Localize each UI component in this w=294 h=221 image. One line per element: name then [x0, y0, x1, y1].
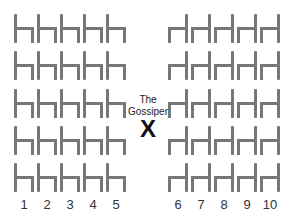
chair-col-8-row-5: [214, 163, 234, 192]
chair-seat: [14, 139, 31, 142]
gossiper-label-line1: The: [128, 94, 168, 106]
chair-seat: [194, 139, 211, 142]
chair-seat: [83, 64, 100, 67]
column-label-9: 9: [236, 197, 258, 212]
chair-leg: [260, 139, 263, 155]
chair-leg: [168, 64, 171, 80]
chair-col-6-row-3: [168, 89, 188, 118]
chair-seat: [106, 64, 123, 67]
chair-seat: [106, 102, 123, 105]
chair-col-10-row-4: [260, 126, 280, 155]
chair-leg: [77, 102, 80, 118]
chair-col-9-row-4: [237, 126, 257, 155]
chair-leg: [237, 176, 240, 192]
chair-col-1-row-4: [14, 126, 34, 155]
chair-leg: [237, 102, 240, 118]
chair-leg: [100, 102, 103, 118]
chair-leg: [191, 64, 194, 80]
chair-seat: [194, 176, 211, 179]
chair-col-5-row-1: [106, 14, 126, 43]
chair-leg: [77, 27, 80, 43]
chair-col-2-row-5: [37, 163, 57, 192]
chair-col-3-row-3: [60, 89, 80, 118]
chair-seat: [60, 176, 77, 179]
chair-col-9-row-5: [237, 163, 257, 192]
chair-leg: [237, 64, 240, 80]
chair-leg: [123, 27, 126, 43]
chair-seat: [37, 139, 54, 142]
chair-col-7-row-5: [191, 163, 211, 192]
chair-seat: [106, 176, 123, 179]
chair-col-10-row-2: [260, 51, 280, 80]
chair-seat: [194, 64, 211, 67]
chair-seat: [37, 64, 54, 67]
chair-leg: [237, 27, 240, 43]
chair-leg: [54, 176, 57, 192]
chair-col-2-row-2: [37, 51, 57, 80]
chair-leg: [123, 139, 126, 155]
chair-leg: [260, 64, 263, 80]
chair-col-2-row-4: [37, 126, 57, 155]
chair-col-7-row-3: [191, 89, 211, 118]
chair-col-6-row-5: [168, 163, 188, 192]
chair-col-8-row-3: [214, 89, 234, 118]
chair-seat: [240, 176, 257, 179]
chair-col-8-row-4: [214, 126, 234, 155]
chair-seat: [60, 27, 77, 30]
chair-leg: [214, 64, 217, 80]
column-label-1: 1: [13, 197, 35, 212]
chair-seat: [217, 176, 234, 179]
chair-leg: [214, 27, 217, 43]
chair-leg: [31, 27, 34, 43]
chair-col-9-row-3: [237, 89, 257, 118]
chair-col-4-row-3: [83, 89, 103, 118]
chair-seat: [83, 176, 100, 179]
chair-leg: [214, 102, 217, 118]
chair-leg: [214, 176, 217, 192]
chair-col-9-row-2: [237, 51, 257, 80]
chair-seat: [60, 64, 77, 67]
chair-leg: [54, 102, 57, 118]
chair-seat: [83, 139, 100, 142]
chair-leg: [260, 102, 263, 118]
chair-seat: [106, 27, 123, 30]
gossiper-marker-icon: X: [128, 117, 168, 141]
chair-col-3-row-2: [60, 51, 80, 80]
chair-seat: [240, 139, 257, 142]
chair-seat: [171, 27, 188, 30]
chair-seat: [60, 139, 77, 142]
chair-col-3-row-1: [60, 14, 80, 43]
chair-leg: [260, 27, 263, 43]
chair-seat: [171, 64, 188, 67]
column-label-5: 5: [105, 197, 127, 212]
chair-leg: [100, 64, 103, 80]
chair-seat: [106, 139, 123, 142]
chair-seat: [14, 102, 31, 105]
chair-seat: [240, 64, 257, 67]
chair-col-7-row-1: [191, 14, 211, 43]
chair-seat: [171, 139, 188, 142]
chair-seat: [263, 176, 280, 179]
chair-leg: [191, 102, 194, 118]
chair-seat: [194, 27, 211, 30]
chair-col-3-row-5: [60, 163, 80, 192]
chair-col-4-row-5: [83, 163, 103, 192]
chair-col-5-row-4: [106, 126, 126, 155]
chair-leg: [168, 139, 171, 155]
chair-seat: [83, 27, 100, 30]
chair-col-5-row-5: [106, 163, 126, 192]
column-label-8: 8: [213, 197, 235, 212]
column-label-10: 10: [259, 197, 281, 212]
chair-seat: [263, 27, 280, 30]
chair-leg: [123, 176, 126, 192]
chair-seat: [37, 176, 54, 179]
chair-col-8-row-2: [214, 51, 234, 80]
chair-leg: [31, 64, 34, 80]
chair-col-5-row-2: [106, 51, 126, 80]
chair-seat: [217, 102, 234, 105]
chair-leg: [31, 102, 34, 118]
chair-leg: [123, 64, 126, 80]
column-label-2: 2: [36, 197, 58, 212]
chair-col-2-row-3: [37, 89, 57, 118]
chair-seat: [194, 102, 211, 105]
